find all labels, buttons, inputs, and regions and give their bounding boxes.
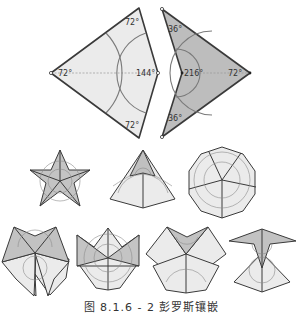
dart-angle-bottom: 36° [168, 114, 182, 123]
vertex-deuce [229, 229, 296, 292]
dart-tile: 36° 216° 72° 36° [160, 7, 251, 138]
dart-angle-top: 36° [168, 25, 182, 34]
kite-tile: 72° 72° 144° 72° [49, 8, 159, 138]
vertex-jack [146, 227, 226, 293]
kite-angle-top: 72° [125, 18, 139, 27]
dart-angle-right: 72° [228, 69, 242, 78]
vertex-ace [110, 150, 175, 208]
vertex-sun [189, 147, 256, 218]
figure-caption: 图 8.1.6 - 2 彭罗斯镶嵌 [0, 298, 303, 314]
kite-angle-left: 72° [58, 69, 72, 78]
dart-angle-inner: 216° [184, 69, 203, 78]
vertex-queen [77, 228, 139, 290]
vertex-star [30, 150, 90, 206]
kite-angle-bottom: 72° [125, 121, 139, 130]
vertex-king [2, 227, 69, 296]
kite-angle-right: 144° [136, 69, 155, 78]
